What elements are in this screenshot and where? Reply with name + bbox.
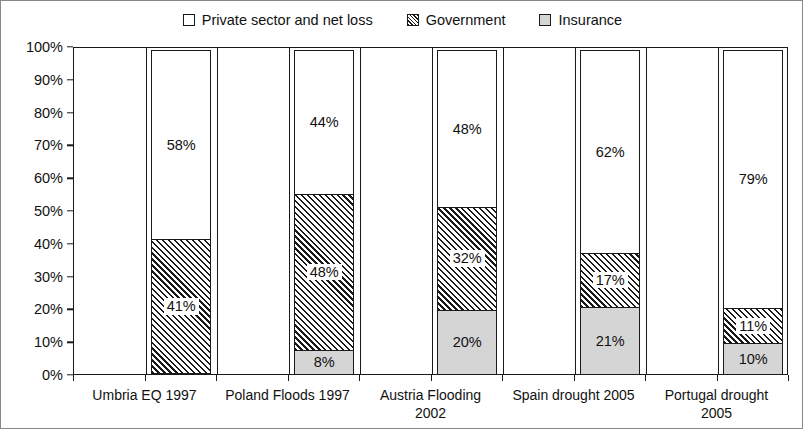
stacked-bar[interactable]: 1%41%58% (151, 46, 211, 374)
y-tick-label: 0% (3, 367, 63, 383)
category-separator (503, 48, 504, 374)
y-tick-label: 70% (3, 137, 63, 153)
y-tick-label: 30% (3, 269, 63, 285)
segment-value-label: 44% (307, 114, 342, 131)
x-tick-mark (216, 375, 217, 381)
category-separator (432, 48, 433, 374)
segment-insurance[interactable]: 21% (580, 307, 640, 376)
legend-item-private-sector: Private sector and net loss (183, 12, 373, 28)
segment-government[interactable]: 41% (151, 239, 211, 373)
chart-figure: Private sector and net loss Government I… (0, 0, 803, 429)
segment-value-label: 41% (164, 298, 199, 315)
white-square-icon (183, 14, 195, 26)
segment-insurance[interactable]: 20% (437, 310, 497, 376)
segment-government[interactable]: 11% (723, 308, 783, 344)
segment-private-sector[interactable]: 62% (580, 50, 640, 253)
category-separator (360, 48, 361, 374)
segment-value-label: 21% (593, 333, 628, 350)
plot-area: 1%41%58%8%48%44%20%32%48%21%17%62%10%11%… (73, 47, 788, 375)
chart-legend: Private sector and net loss Government I… (1, 9, 803, 31)
x-tick-mark (717, 375, 718, 381)
segment-value-label: 48% (307, 264, 342, 281)
x-tick-label: Poland Floods 1997 (218, 387, 358, 405)
category-separator (217, 48, 218, 374)
y-tick-label: 90% (3, 72, 63, 88)
x-tick-mark (359, 375, 360, 381)
x-tick-mark (574, 375, 575, 381)
segment-value-label: 62% (593, 144, 628, 161)
category-separator (646, 48, 647, 374)
y-tick-label: 20% (3, 301, 63, 317)
segment-value-label: 8% (311, 354, 338, 371)
gray-square-icon (539, 14, 551, 26)
segment-government[interactable]: 48% (294, 193, 354, 350)
stacked-bar[interactable]: 10%11%79% (723, 46, 783, 374)
x-tick-mark (145, 375, 146, 381)
segment-insurance[interactable]: 10% (723, 343, 783, 376)
x-tick-mark (288, 375, 289, 381)
segment-value-label: 79% (736, 171, 771, 188)
legend-label-private-sector: Private sector and net loss (202, 12, 373, 28)
x-tick-label: Austria Flooding2002 (361, 387, 501, 422)
y-tick-label: 80% (3, 105, 63, 121)
x-tick-label: Spain drought 2005 (504, 387, 644, 405)
segment-value-label: 32% (450, 250, 485, 267)
x-tick-mark (73, 375, 74, 381)
x-tick-label: Portugal drought2005 (647, 387, 787, 422)
segment-value-label: 48% (450, 121, 485, 138)
segment-insurance[interactable]: 8% (294, 349, 354, 375)
x-tick-mark (788, 375, 789, 381)
stacked-bar[interactable]: 20%32%48% (437, 46, 497, 374)
y-tick-label: 100% (3, 39, 63, 55)
stacked-bar[interactable]: 21%17%62% (580, 46, 640, 374)
segment-government[interactable]: 32% (437, 206, 497, 311)
hatched-square-icon (407, 14, 419, 26)
legend-label-insurance: Insurance (558, 12, 622, 28)
category-separator (146, 48, 147, 374)
segment-value-label: 17% (593, 272, 628, 289)
x-tick-mark (431, 375, 432, 381)
category-separator (575, 48, 576, 374)
segment-private-sector[interactable]: 44% (294, 50, 354, 194)
category-separator (289, 48, 290, 374)
segment-private-sector[interactable]: 79% (723, 50, 783, 309)
legend-item-government: Government (407, 12, 506, 28)
x-tick-label: Umbria EQ 1997 (75, 387, 215, 405)
x-tick-mark (502, 375, 503, 381)
segment-value-label: 10% (736, 351, 771, 368)
y-tick-label: 60% (3, 170, 63, 186)
legend-label-government: Government (426, 12, 506, 28)
y-tick-label: 50% (3, 203, 63, 219)
y-tick-label: 40% (3, 236, 63, 252)
x-tick-mark (645, 375, 646, 381)
segment-government[interactable]: 17% (580, 252, 640, 308)
segment-private-sector[interactable]: 58% (151, 50, 211, 240)
stacked-bar[interactable]: 8%48%44% (294, 46, 354, 374)
segment-value-label: 11% (736, 318, 770, 335)
segment-value-label: 20% (450, 334, 485, 351)
category-separator (718, 48, 719, 374)
segment-private-sector[interactable]: 48% (437, 50, 497, 207)
legend-item-insurance: Insurance (539, 12, 622, 28)
y-tick-label: 10% (3, 334, 63, 350)
segment-value-label: 58% (164, 137, 199, 154)
